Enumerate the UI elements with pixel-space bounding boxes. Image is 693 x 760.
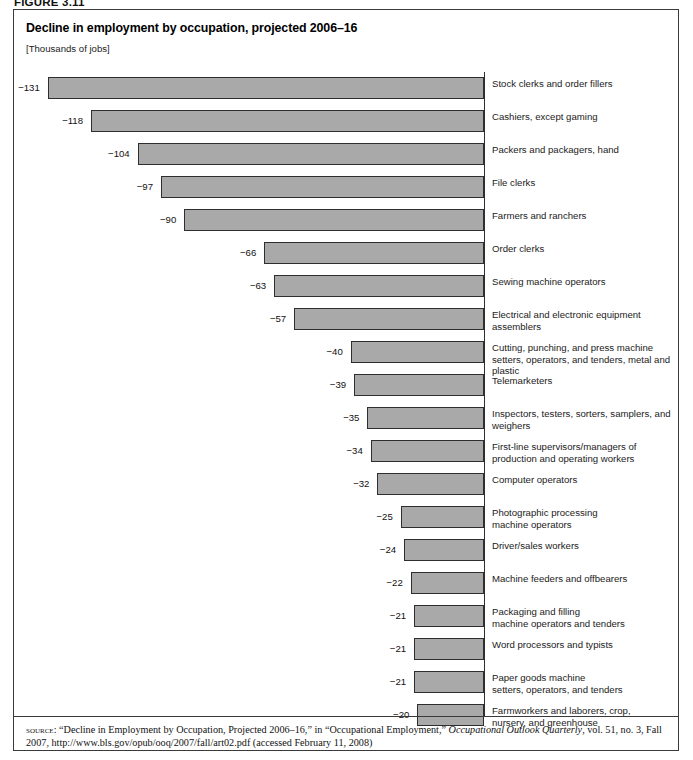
source-divider xyxy=(14,716,678,717)
bar-category-label: Cashiers, except gaming xyxy=(492,111,687,123)
bar xyxy=(138,143,484,165)
bar-value-label: −97 xyxy=(115,181,153,192)
bar xyxy=(184,209,484,231)
bar xyxy=(371,440,484,462)
bar-category-label: Electrical and electronic equipment asse… xyxy=(492,309,687,332)
bar-category-label: Word processors and typists xyxy=(492,639,687,651)
bar-category-label: Computer operators xyxy=(492,474,687,486)
bar-row: −32Computer operators xyxy=(14,468,678,501)
bar-value-label: −25 xyxy=(355,511,393,522)
source-note: source: “Decline in Employment by Occupa… xyxy=(26,723,670,750)
bar-value-label: −131 xyxy=(2,82,40,93)
bar xyxy=(411,572,484,594)
source-publication-title: Occupational Outlook Quarterly xyxy=(449,724,583,735)
bar-value-label: −118 xyxy=(45,115,83,126)
bar xyxy=(294,308,484,330)
bar-value-label: −63 xyxy=(228,280,266,291)
bar-row: −24Driver/sales workers xyxy=(14,534,678,567)
bar-category-label: Photographic processing machine operator… xyxy=(492,507,687,530)
bar-row: −21Packaging and filling machine operato… xyxy=(14,600,678,633)
bar-row: −90Farmers and ranchers xyxy=(14,204,678,237)
bar-value-label: −21 xyxy=(368,676,406,687)
bar-value-label: −24 xyxy=(358,544,396,555)
bar-category-label: Farmers and ranchers xyxy=(492,210,687,222)
bar xyxy=(414,638,484,660)
bar xyxy=(404,539,484,561)
bar xyxy=(414,671,484,693)
bar xyxy=(48,77,484,99)
figure-number: FIGURE 3.11 xyxy=(14,0,85,8)
bar-value-label: −90 xyxy=(138,214,176,225)
bar-row: −118Cashiers, except gaming xyxy=(14,105,678,138)
bar-row: −97File clerks xyxy=(14,171,678,204)
bar-category-label: Driver/sales workers xyxy=(492,540,687,552)
chart-units-note: [Thousands of jobs] xyxy=(26,43,110,54)
figure-frame: Decline in employment by occupation, pro… xyxy=(13,9,679,751)
bar-chart-plot-area: −131Stock clerks and order fillers−118Ca… xyxy=(14,72,678,717)
bar-row: −25Photographic processing machine opera… xyxy=(14,501,678,534)
bar-row: −22Machine feeders and offbearers xyxy=(14,567,678,600)
bar-value-label: −40 xyxy=(305,346,343,357)
bar-category-label: Packaging and filling machine operators … xyxy=(492,606,687,629)
bar-row: −131Stock clerks and order fillers xyxy=(14,72,678,105)
bar-value-label: −39 xyxy=(308,379,346,390)
bar-value-label: −34 xyxy=(325,445,363,456)
bar xyxy=(264,242,484,264)
bar-value-label: −32 xyxy=(331,478,369,489)
bar-category-label: Telemarketers xyxy=(492,375,687,387)
source-text: : “Decline in Employment by Occupation, … xyxy=(54,724,449,735)
bar-row: −63Sewing machine operators xyxy=(14,270,678,303)
bar-category-label: Paper goods machine setters, operators, … xyxy=(492,672,687,695)
bar-row: −21Paper goods machine setters, operator… xyxy=(14,666,678,699)
bar xyxy=(401,506,484,528)
bar-value-label: −66 xyxy=(218,247,256,258)
bar xyxy=(354,374,484,396)
bar-category-label: First-line supervisors/managers of produ… xyxy=(492,441,687,464)
bar-value-label: −104 xyxy=(92,148,130,159)
bar xyxy=(91,110,484,132)
bar-category-label: Stock clerks and order fillers xyxy=(492,78,687,90)
bar-category-label: Order clerks xyxy=(492,243,687,255)
bar-value-label: −22 xyxy=(365,577,403,588)
bar-row: −39Telemarketers xyxy=(14,369,678,402)
bar-value-label: −21 xyxy=(368,643,406,654)
bar-category-label: File clerks xyxy=(492,177,687,189)
bar xyxy=(351,341,484,363)
bar-row: −104Packers and packagers, hand xyxy=(14,138,678,171)
bar-row: −40Cutting, punching, and press machine … xyxy=(14,336,678,369)
bar-row: −66Order clerks xyxy=(14,237,678,270)
bar-value-label: −21 xyxy=(368,610,406,621)
bar-row: −21Word processors and typists xyxy=(14,633,678,666)
chart-title: Decline in employment by occupation, pro… xyxy=(26,21,357,35)
source-label: source xyxy=(26,724,54,735)
bar-value-label: −35 xyxy=(321,412,359,423)
bar-value-label: −20 xyxy=(371,709,409,720)
bar xyxy=(414,605,484,627)
bar-row: −34First-line supervisors/managers of pr… xyxy=(14,435,678,468)
bar-category-label: Packers and packagers, hand xyxy=(492,144,687,156)
bar xyxy=(161,176,484,198)
bar-row: −57Electrical and electronic equipment a… xyxy=(14,303,678,336)
bar-value-label: −57 xyxy=(248,313,286,324)
bar xyxy=(274,275,484,297)
bar-category-label: Inspectors, testers, sorters, samplers, … xyxy=(492,408,687,431)
bar xyxy=(367,407,484,429)
bar xyxy=(377,473,484,495)
bar-category-label: Machine feeders and offbearers xyxy=(492,573,687,585)
bar-row: −35Inspectors, testers, sorters, sampler… xyxy=(14,402,678,435)
bar-category-label: Sewing machine operators xyxy=(492,276,687,288)
